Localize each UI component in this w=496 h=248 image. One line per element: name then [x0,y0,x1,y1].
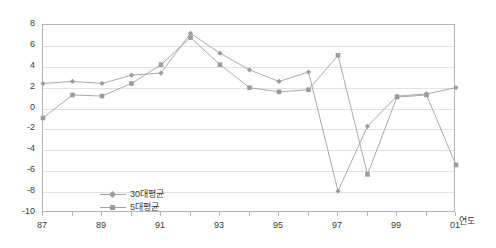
y-axis-tick-label: 8 [0,19,35,28]
x-axis-tick-mark [42,212,43,216]
y-axis-tick-label: -4 [0,144,35,153]
data-point-marker [247,67,252,72]
x-axis-tick-label: 99 [384,221,408,230]
y-axis-tick-label: -6 [0,165,35,174]
x-axis-title: 연도 [459,214,475,227]
x-axis-tick-mark [72,212,73,216]
data-point-marker [217,51,222,56]
x-axis-tick-label: 89 [89,221,113,230]
data-point-marker [365,172,370,177]
data-point-marker [159,62,164,67]
legend: 30대평균5대평균 [100,188,164,214]
x-axis-tick-label: 95 [266,221,290,230]
data-point-marker [99,81,104,86]
x-axis-tick-mark [367,212,368,216]
x-axis-tick-mark [219,212,220,216]
diamond-marker-icon [100,189,126,200]
series-layer [43,25,456,213]
y-axis-tick-label: 2 [0,82,35,91]
x-axis-tick-mark [278,212,279,216]
data-point-marker [218,62,223,67]
x-axis-tick-mark [160,212,161,216]
data-point-marker [70,79,75,84]
data-point-marker [277,90,282,95]
x-axis-tick-mark [396,212,397,216]
y-axis-tick-label: -10 [0,207,35,216]
plot-area: 30대평균5대평균 [42,24,455,212]
x-axis-tick-label: 91 [148,221,172,230]
data-point-marker [247,85,252,90]
x-axis-tick-mark [249,212,250,216]
data-point-marker [453,85,458,90]
data-point-marker [40,81,45,86]
square-marker-icon [100,202,126,213]
x-axis-tick-mark [308,212,309,216]
data-point-marker [100,94,105,99]
y-axis-tick-label: 0 [0,103,35,112]
data-point-marker [306,69,311,74]
x-axis-tick-mark [426,212,427,216]
x-axis-tick-mark [131,212,132,216]
x-axis-tick-mark [337,212,338,216]
data-point-marker [129,73,134,78]
data-point-marker [129,81,134,86]
y-axis-tick-label: -2 [0,123,35,132]
data-point-marker [306,87,311,92]
legend-item: 30대평균 [100,188,164,201]
series-line [43,33,456,191]
data-point-marker [188,35,193,40]
legend-label: 30대평균 [130,188,164,201]
legend-item: 5대평균 [100,201,164,214]
y-axis-tick-label: 4 [0,61,35,70]
y-axis-tick-label: -8 [0,186,35,195]
data-point-marker [70,93,75,98]
legend-label: 5대평균 [130,201,159,214]
data-point-marker [424,93,429,98]
x-axis-tick-mark [101,212,102,216]
y-axis-tick-label: 6 [0,40,35,49]
series-line [43,38,456,175]
data-point-marker [276,79,281,84]
line-chart: 86420-2-4-6-8-10 30대평균5대평균 8789919395979… [0,0,496,248]
data-point-marker [395,95,400,100]
data-point-marker [41,116,46,121]
data-point-marker [335,188,340,193]
x-axis-tick-label: 93 [207,221,231,230]
x-axis-tick-mark [190,212,191,216]
x-axis-tick-label: 87 [30,221,54,230]
data-point-marker [336,53,341,58]
x-axis-tick-mark [455,212,456,216]
x-axis-tick-label: 97 [325,221,349,230]
data-point-marker [454,163,459,168]
